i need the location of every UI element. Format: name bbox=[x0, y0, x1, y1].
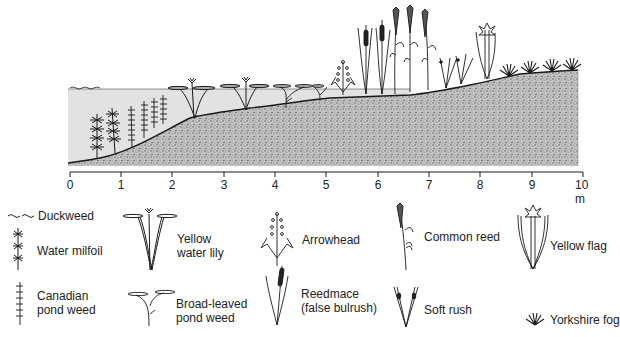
legend-yellow-water-lily-icon bbox=[123, 208, 177, 270]
scale-tick-6: 6 bbox=[375, 178, 382, 192]
legend-label-arrowhead: Arrowhead bbox=[302, 233, 360, 247]
legend-arrowhead-icon bbox=[261, 213, 293, 267]
scale-tick-1: 1 bbox=[118, 178, 125, 192]
scale-tick-5: 5 bbox=[323, 178, 330, 192]
scale-tick-3: 3 bbox=[221, 178, 228, 192]
legend-water-milfoil-icon bbox=[13, 228, 23, 270]
legend-duckweed-icon bbox=[8, 215, 34, 218]
scale-axis bbox=[70, 172, 583, 177]
legend-broad-leaved-pond-weed-icon bbox=[128, 290, 175, 326]
common-reed-icon bbox=[390, 5, 436, 94]
scale-tick-9: 9 bbox=[529, 178, 536, 192]
scale-tick-2: 2 bbox=[169, 178, 176, 192]
legend-label-broad-leaved-line2: pond weed bbox=[176, 311, 235, 325]
legend-label-yorkshire-fog: Yorkshire fog bbox=[550, 313, 620, 327]
scale-tick-8: 8 bbox=[477, 178, 484, 192]
legend-canadian-pond-weed-icon bbox=[16, 282, 23, 325]
soft-rush-icon bbox=[440, 54, 473, 88]
legend-reedmace-icon bbox=[266, 266, 288, 325]
legend-label-broad-leaved-line1: Broad-leaved bbox=[176, 297, 247, 311]
legend-label-yellow-water-lily-line1: Yellow bbox=[177, 232, 211, 246]
reedmace-icon bbox=[358, 20, 390, 94]
legend-label-water-milfoil: Water milfoil bbox=[37, 244, 103, 258]
legend-label-common-reed: Common reed bbox=[424, 230, 500, 244]
legend-yellow-flag-icon bbox=[518, 205, 548, 269]
scale-tick-10: 10 m bbox=[575, 178, 601, 206]
legend-yorkshire-fog-icon bbox=[526, 313, 544, 325]
legend-label-canadian-line2: pond weed bbox=[37, 303, 96, 317]
legend-label-reedmace-line1: Reedmace bbox=[301, 287, 359, 301]
yellow-flag-icon bbox=[476, 23, 495, 79]
legend-label-duckweed: Duckweed bbox=[38, 209, 94, 223]
legend-label-yellow-flag: Yellow flag bbox=[550, 239, 607, 253]
legend-label-canadian-line1: Canadian bbox=[37, 289, 88, 303]
scale-tick-4: 4 bbox=[272, 178, 279, 192]
legend-label-reedmace-line2: (false bulrush) bbox=[301, 301, 377, 315]
legend-label-soft-rush: Soft rush bbox=[424, 303, 472, 317]
legend-soft-rush-icon bbox=[394, 287, 418, 327]
scale-tick-0: 0 bbox=[67, 178, 74, 192]
legend-label-yellow-water-lily-line2: water lily bbox=[177, 246, 224, 260]
legend-common-reed-icon bbox=[397, 203, 413, 270]
scale-tick-7: 7 bbox=[426, 178, 433, 192]
